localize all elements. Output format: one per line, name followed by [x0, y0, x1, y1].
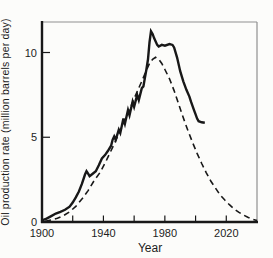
y-axis-title: Oil production rate (million barrels per…: [0, 18, 11, 225]
x-axis-title: Year: [138, 241, 162, 255]
series-lines: [42, 31, 257, 221]
chart-canvas: 19001940198020200510 Year Oil production…: [0, 0, 273, 258]
y-tick-label: 0: [31, 216, 37, 228]
x-tick-label: 1940: [91, 227, 115, 239]
oil-production-chart: 19001940198020200510 Year Oil production…: [0, 0, 273, 258]
y-tick-label: 5: [31, 131, 37, 143]
x-tick-label: 2020: [214, 227, 238, 239]
y-tick-label: 10: [25, 47, 37, 59]
tick-labels: 19001940198020200510: [25, 47, 239, 239]
tick-marks: [43, 53, 226, 221]
actual-production-line: [42, 31, 205, 220]
x-tick-label: 1980: [153, 227, 177, 239]
x-tick-label: 1900: [30, 227, 54, 239]
